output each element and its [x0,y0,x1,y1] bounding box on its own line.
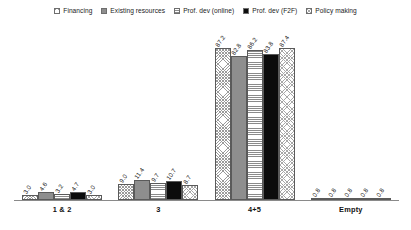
legend-item-prof-dev-f2f: Prof. dev (F2F) [243,7,297,14]
bar-slot: 0.8 [359,26,375,200]
bar-slot: 11.4 [134,26,150,200]
bar[interactable]: 83.8 [263,54,279,200]
bar-slot: 8.7 [182,26,198,200]
bar-value-label: 4.7 [70,181,81,192]
legend-swatch-icon-policy-making [306,8,312,14]
bar-slot: 82.8 [231,26,247,200]
legend-swatch-icon-prof-dev-online [174,8,180,14]
legend-label-prof-dev-online: Prof. dev (online) [183,7,234,14]
bar[interactable]: 4.6 [38,192,54,200]
x-axis-tick-label: 4+5 [207,205,303,214]
bar-groups: 3.04.63.24.73.09.011.49.710.78.787.282.8… [14,26,399,200]
bar[interactable]: 8.7 [182,185,198,200]
bar-value-label: 3.0 [22,183,33,194]
bar-chart: Financing Existing resources Prof. dev (… [0,0,411,230]
bar-group: 9.011.49.710.78.7 [110,26,206,200]
bar-slot: 9.0 [118,26,134,200]
bar-slot: 4.7 [70,26,86,200]
legend-swatch-icon-prof-dev-f2f [243,8,249,14]
legend-item-prof-dev-online: Prof. dev (online) [174,7,234,14]
bar-value-label: 0.8 [342,187,353,198]
bar-value-label: 83.8 [261,40,274,54]
bar-value-label: 8.7 [182,174,193,185]
bar-slot: 3.0 [86,26,102,200]
legend-item-financing: Financing [54,7,92,14]
bar-slot: 83.8 [263,26,279,200]
legend-label-existing-resources: Existing resources [110,7,165,14]
bar-value-label: 86.2 [245,36,258,50]
plot-area: 3.04.63.24.73.09.011.49.710.78.787.282.8… [14,26,399,201]
bar-value-label: 9.7 [150,172,161,183]
bar-value-label: 0.8 [326,187,337,198]
bar[interactable]: 4.7 [70,192,86,200]
bar-value-label: 0.8 [374,187,385,198]
bar-slot: 0.8 [311,26,327,200]
bar-slot: 0.8 [375,26,391,200]
x-axis-tick-label: 1 & 2 [14,205,110,214]
bar-value-label: 11.4 [133,166,146,180]
bar-value-label: 87.4 [277,34,290,48]
bar-slot: 4.6 [38,26,54,200]
x-axis-tick-labels: 1 & 234+5Empty [14,205,399,214]
bar[interactable]: 10.7 [166,181,182,200]
bar[interactable]: 9.0 [118,184,134,200]
legend-label-policy-making: Policy making [315,7,356,14]
x-axis-tick-label: 3 [110,205,206,214]
bar-slot: 87.4 [279,26,295,200]
bar-value-label: 82.8 [229,42,242,56]
legend-item-policy-making: Policy making [306,7,356,14]
bar[interactable]: 86.2 [247,50,263,200]
bar-value-label: 10.7 [165,167,178,181]
bar-group: 3.04.63.24.73.0 [14,26,110,200]
bar-slot: 10.7 [166,26,182,200]
bar-value-label: 3.2 [54,183,65,194]
bar[interactable]: 9.7 [150,183,166,200]
legend-swatch-icon-existing-resources [101,8,107,14]
bar-value-label: 0.8 [310,187,321,198]
legend-item-existing-resources: Existing resources [101,7,165,14]
legend-swatch-icon-financing [54,8,60,14]
bar-slot: 0.8 [327,26,343,200]
bar[interactable]: 82.8 [231,56,247,200]
chart-legend: Financing Existing resources Prof. dev (… [0,7,411,14]
bar-group: 0.80.80.80.80.8 [303,26,399,200]
bar-group: 87.282.886.283.887.4 [207,26,303,200]
x-axis-line [14,200,399,201]
bar-value-label: 0.8 [358,187,369,198]
bar[interactable]: 11.4 [134,180,150,200]
legend-label-prof-dev-f2f: Prof. dev (F2F) [252,7,297,14]
bar-slot: 9.7 [150,26,166,200]
bar-value-label: 3.0 [86,183,97,194]
bar-slot: 86.2 [247,26,263,200]
bar-slot: 3.0 [22,26,38,200]
bar-slot: 3.2 [54,26,70,200]
bar-value-label: 9.0 [118,173,129,184]
bar-slot: 0.8 [343,26,359,200]
bar-value-label: 4.6 [38,181,49,192]
legend-label-financing: Financing [63,7,92,14]
bar[interactable]: 87.4 [279,48,295,200]
bar[interactable]: 87.2 [215,48,231,200]
x-axis-tick-label: Empty [303,205,399,214]
bar-slot: 87.2 [215,26,231,200]
bar-value-label: 87.2 [213,34,226,48]
